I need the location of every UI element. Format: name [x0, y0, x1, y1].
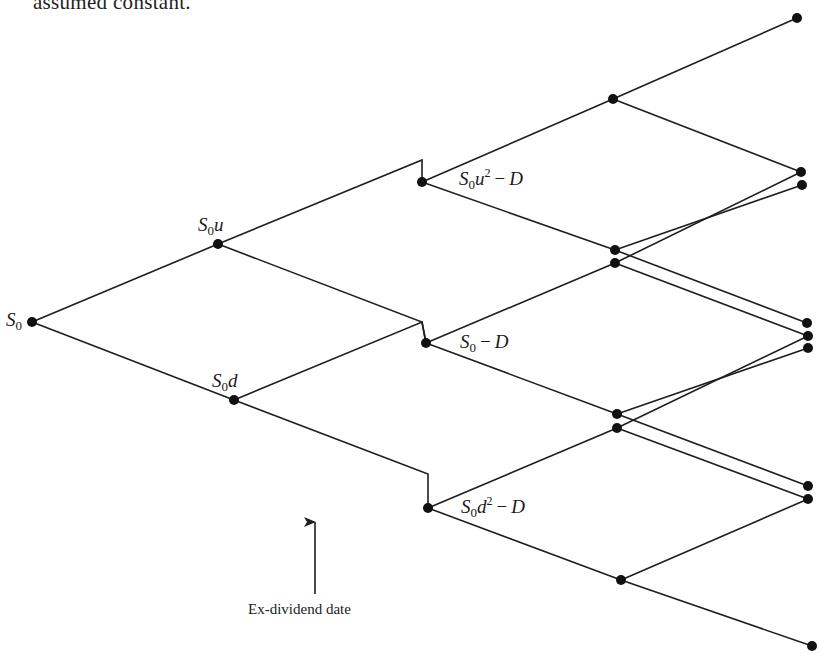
tree-node — [27, 317, 37, 327]
tree-node — [797, 180, 807, 190]
tree-edges — [32, 18, 812, 646]
tree-node — [796, 167, 806, 177]
tree-edge — [234, 322, 426, 400]
tree-edge — [617, 414, 808, 486]
tree-node — [802, 318, 812, 328]
tree-node — [616, 575, 626, 585]
tree-nodes — [27, 13, 817, 651]
tree-edge — [32, 244, 218, 322]
node-label-s0u: S0u — [198, 214, 224, 239]
tree-edge — [617, 348, 808, 414]
tree-node — [423, 503, 433, 513]
tree-node — [610, 245, 620, 255]
tree-node — [417, 177, 427, 187]
tree-edge — [218, 244, 426, 343]
tree-node — [803, 343, 813, 353]
tree-node — [421, 338, 431, 348]
tree-node — [803, 331, 813, 341]
tree-node — [612, 409, 622, 419]
tree-edge — [617, 428, 808, 499]
node-label-s0-minus-d: S0−D — [460, 331, 508, 356]
tree-node — [610, 258, 620, 268]
tree-node — [807, 641, 817, 651]
tree-node — [229, 395, 239, 405]
tree-edge — [218, 160, 422, 244]
tree-edge — [615, 172, 801, 263]
tree-edge — [621, 580, 812, 646]
node-label-s0d2-minus-d: S0d2−D — [461, 494, 525, 521]
ex-dividend-date-label: Ex-dividend date — [248, 601, 351, 618]
tree-node — [792, 13, 802, 23]
tree-edge — [613, 99, 801, 172]
tree-node — [612, 423, 622, 433]
tree-edge — [32, 322, 234, 400]
node-label-s0d: S0d — [212, 370, 238, 395]
tree-node — [608, 94, 618, 104]
tree-edge — [621, 499, 808, 580]
tree-edge — [234, 400, 428, 508]
tree-edge — [426, 263, 615, 343]
node-label-s0u2-minus-d: S0u2−D — [459, 166, 523, 193]
node-label-s0: S0 — [6, 309, 22, 334]
tree-node — [803, 494, 813, 504]
tree-edge — [615, 263, 808, 336]
tree-node — [213, 239, 223, 249]
tree-edge — [426, 343, 617, 414]
tree-edge — [617, 336, 808, 428]
tree-node — [803, 481, 813, 491]
tree-edge — [613, 18, 797, 99]
binomial-tree-diagram — [0, 0, 820, 664]
tree-edge — [615, 250, 807, 323]
